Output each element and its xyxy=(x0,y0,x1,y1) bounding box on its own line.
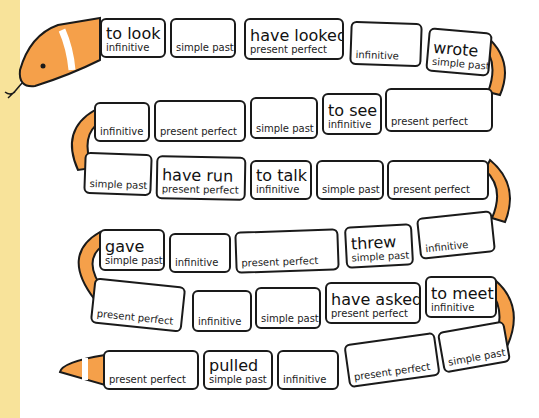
tile[interactable]: to talkinfinitive xyxy=(250,160,312,200)
tile[interactable]: to meetinfinitive xyxy=(425,276,497,318)
tile[interactable]: simple past xyxy=(250,97,318,139)
tense-label: infinitive xyxy=(256,184,306,195)
verb-word: have asked xyxy=(331,292,415,308)
tile[interactable]: present perfect xyxy=(234,228,339,274)
verb-word: to look xyxy=(106,26,160,42)
verb-word: to meet xyxy=(431,286,491,302)
tile[interactable]: present perfect xyxy=(103,350,199,390)
tense-label: infinitive xyxy=(355,49,415,62)
tense-label: simple past xyxy=(322,184,378,195)
tense-label: present perfect xyxy=(162,183,240,195)
snake-head-icon xyxy=(20,18,100,86)
tense-label: simple past xyxy=(209,374,267,385)
verb-word: gave xyxy=(105,239,159,255)
verb-word: have looked xyxy=(250,28,338,44)
tile[interactable]: have runpresent perfect xyxy=(156,155,247,201)
tile[interactable]: present perfect xyxy=(90,277,186,332)
tile[interactable]: present perfect xyxy=(385,88,493,132)
tile[interactable]: have askedpresent perfect xyxy=(325,282,421,324)
tile[interactable]: infinitive xyxy=(416,210,496,260)
tile[interactable]: simple past xyxy=(255,287,321,329)
verb-word: have run xyxy=(162,167,240,184)
tile[interactable]: infinitive xyxy=(192,290,252,332)
tense-label: present perfect xyxy=(109,374,193,385)
tense-label: simple past xyxy=(176,42,230,53)
tense-label: simple past xyxy=(89,178,145,191)
tile[interactable]: have lookedpresent perfect xyxy=(244,18,344,60)
tile[interactable]: simple past xyxy=(83,152,152,196)
tile[interactable]: infinitive xyxy=(169,233,231,273)
tile[interactable]: present perfect xyxy=(387,160,489,200)
tile[interactable]: wrotesimple past xyxy=(425,27,493,76)
tense-label: simple past xyxy=(351,250,407,264)
tense-label: infinitive xyxy=(100,126,144,137)
tense-label: simple past xyxy=(256,123,312,134)
tense-label: present perfect xyxy=(241,254,333,268)
tile[interactable]: pulledsimple past xyxy=(203,350,273,390)
verb-word: pulled xyxy=(209,358,267,374)
tile[interactable]: to seeinfinitive xyxy=(322,93,382,135)
tense-label: infinitive xyxy=(431,302,491,313)
verb-word: to see xyxy=(328,103,376,119)
tense-label: simple past xyxy=(105,255,159,266)
tile[interactable]: simple past xyxy=(170,18,236,58)
tense-label: present perfect xyxy=(391,116,487,127)
snake-tongue-icon xyxy=(5,83,22,98)
tile[interactable]: to lookinfinitive xyxy=(100,18,166,58)
tile[interactable]: simple past xyxy=(316,160,384,200)
tense-label: infinitive xyxy=(198,316,246,327)
tense-label: infinitive xyxy=(283,374,333,385)
snake-eye-icon xyxy=(41,64,46,69)
tense-label: present perfect xyxy=(393,184,483,195)
tense-label: present perfect xyxy=(96,308,177,327)
tile[interactable]: infinitive xyxy=(277,350,339,390)
tile[interactable]: present perfect xyxy=(154,100,246,142)
tense-label: infinitive xyxy=(328,119,376,130)
tense-label: simple past xyxy=(261,313,315,324)
tense-label: infinitive xyxy=(425,237,490,255)
tile[interactable]: infinitive xyxy=(94,102,150,142)
verb-word: to talk xyxy=(256,168,306,184)
tense-label: present perfect xyxy=(160,126,240,137)
tense-label: infinitive xyxy=(175,257,225,268)
tense-label: infinitive xyxy=(106,42,160,53)
tense-label: present perfect xyxy=(250,44,338,55)
tile[interactable]: infinitive xyxy=(349,21,422,67)
tile[interactable]: gavesimple past xyxy=(99,229,165,271)
tile[interactable]: threwsimple past xyxy=(344,223,414,269)
tense-label: present perfect xyxy=(331,308,415,319)
